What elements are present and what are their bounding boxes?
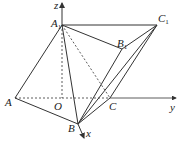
- edge-B-C: [78, 98, 110, 124]
- prism-diagram: z y x A1 C1 B1 A O C B: [0, 0, 180, 150]
- edge-B-B1: [78, 49, 122, 124]
- diagram-svg: z y x A1 C1 B1 A O C B: [0, 0, 180, 150]
- label-x: x: [85, 127, 91, 139]
- label-z: z: [53, 0, 59, 11]
- edge-A1-B: [62, 25, 78, 124]
- label-C: C: [109, 100, 117, 112]
- edge-A1-C: [62, 25, 110, 98]
- edge-B1-C1: [122, 25, 157, 49]
- label-C1: C1: [158, 12, 169, 26]
- label-A1: A1: [50, 17, 62, 31]
- label-B: B: [68, 122, 75, 134]
- edge-A-B: [15, 98, 78, 124]
- edge-C-C1: [110, 25, 157, 98]
- edge-A1-B1: [62, 25, 122, 49]
- label-O: O: [54, 100, 62, 112]
- label-y: y: [169, 101, 175, 113]
- label-A: A: [4, 96, 12, 108]
- edge-A1-A: [15, 25, 62, 98]
- label-B1: B1: [117, 37, 128, 51]
- x-axis: [78, 124, 84, 138]
